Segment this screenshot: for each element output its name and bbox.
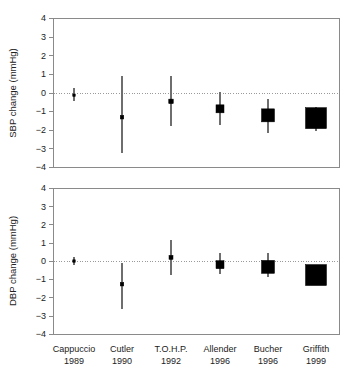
category-label-3: Allender 1996 bbox=[203, 344, 236, 366]
dbp-datapoint-2 bbox=[169, 240, 173, 275]
category-name-4: Bucher bbox=[254, 344, 283, 354]
dbp-ytick-label-neg4: −4 bbox=[36, 329, 46, 339]
category-axis: Cappuccio 1989 Cutler 1990 T.O.H.P. 1992… bbox=[53, 344, 329, 366]
dbp-marker-2 bbox=[169, 255, 173, 259]
chart-svg: 4 3 2 1 0 −1 −2 −3 −4 bbox=[0, 0, 355, 375]
sbp-ytick-label-neg3: −3 bbox=[36, 144, 46, 154]
category-year-5: 1999 bbox=[306, 356, 326, 366]
category-year-2: 1992 bbox=[161, 356, 181, 366]
dbp-marker-4 bbox=[262, 260, 275, 273]
sbp-marker-5 bbox=[306, 108, 327, 129]
sbp-ytick-label-4: 4 bbox=[41, 13, 46, 23]
sbp-ytick-label-3: 3 bbox=[41, 32, 46, 42]
dbp-marker-3 bbox=[216, 261, 224, 269]
forest-plot-figure: 4 3 2 1 0 −1 −2 −3 −4 bbox=[0, 0, 355, 375]
category-year-3: 1996 bbox=[210, 356, 230, 366]
category-name-5: Griffith bbox=[303, 344, 329, 354]
sbp-marker-4 bbox=[262, 109, 275, 122]
sbp-y-axis: 4 3 2 1 0 −1 −2 −3 −4 bbox=[36, 13, 54, 172]
category-year-0: 1989 bbox=[64, 356, 84, 366]
sbp-datapoint-1 bbox=[120, 76, 124, 152]
category-name-2: T.O.H.P. bbox=[155, 344, 188, 354]
dbp-marker-0 bbox=[73, 260, 76, 263]
sbp-datapoint-3 bbox=[216, 92, 224, 125]
category-name-1: Cutler bbox=[110, 344, 134, 354]
dbp-ytick-label-4: 4 bbox=[41, 183, 46, 193]
category-label-4: Bucher 1996 bbox=[254, 344, 283, 366]
sbp-ytick-label-neg2: −2 bbox=[36, 125, 46, 135]
sbp-data-group bbox=[73, 76, 327, 153]
dbp-ytick-label-2: 2 bbox=[41, 220, 46, 230]
dbp-data-group bbox=[73, 240, 327, 308]
sbp-ytick-label-2: 2 bbox=[41, 51, 46, 61]
sbp-marker-0 bbox=[73, 94, 76, 97]
sbp-ytick-label-neg1: −1 bbox=[36, 106, 46, 116]
dbp-datapoint-0 bbox=[73, 257, 76, 265]
category-label-1: Cutler 1990 bbox=[110, 344, 134, 366]
sbp-datapoint-4 bbox=[262, 99, 275, 133]
dbp-ytick-label-1: 1 bbox=[41, 238, 46, 248]
category-name-0: Cappuccio bbox=[53, 344, 96, 354]
dbp-ytick-label-0: 0 bbox=[41, 256, 46, 266]
sbp-marker-3 bbox=[216, 105, 224, 113]
dbp-y-axis: 4 3 2 1 0 −1 −2 −3 −4 bbox=[36, 183, 54, 339]
dbp-datapoint-1 bbox=[120, 263, 124, 309]
dbp-ytick-label-neg1: −1 bbox=[36, 274, 46, 284]
dbp-datapoint-3 bbox=[216, 253, 224, 274]
sbp-datapoint-2 bbox=[169, 76, 174, 126]
sbp-axis-title: SBP change (mmHg) bbox=[7, 48, 18, 138]
dbp-marker-5 bbox=[306, 265, 327, 286]
dbp-datapoint-4 bbox=[262, 253, 275, 277]
category-year-1: 1990 bbox=[112, 356, 132, 366]
dbp-ytick-label-neg3: −3 bbox=[36, 311, 46, 321]
category-label-0: Cappuccio 1989 bbox=[53, 344, 96, 366]
sbp-ytick-label-neg4: −4 bbox=[36, 162, 46, 172]
sbp-datapoint-0 bbox=[73, 88, 76, 101]
dbp-marker-1 bbox=[120, 282, 124, 286]
category-name-3: Allender bbox=[203, 344, 236, 354]
sbp-marker-2 bbox=[169, 99, 174, 104]
sbp-marker-1 bbox=[120, 115, 124, 119]
category-label-5: Griffith 1999 bbox=[303, 344, 329, 366]
sbp-ytick-label-1: 1 bbox=[41, 69, 46, 79]
sbp-datapoint-5 bbox=[306, 107, 327, 131]
category-year-4: 1996 bbox=[258, 356, 278, 366]
dbp-ytick-label-3: 3 bbox=[41, 202, 46, 212]
sbp-ytick-label-0: 0 bbox=[41, 88, 46, 98]
dbp-axis-title: DBP change (mmHg) bbox=[7, 216, 18, 306]
panel-sbp: 4 3 2 1 0 −1 −2 −3 −4 bbox=[7, 13, 340, 172]
panel-dbp: 4 3 2 1 0 −1 −2 −3 −4 DBP change ( bbox=[7, 183, 340, 339]
category-label-2: T.O.H.P. 1992 bbox=[155, 344, 188, 366]
dbp-ytick-label-neg2: −2 bbox=[36, 293, 46, 303]
dbp-datapoint-5 bbox=[306, 265, 327, 286]
